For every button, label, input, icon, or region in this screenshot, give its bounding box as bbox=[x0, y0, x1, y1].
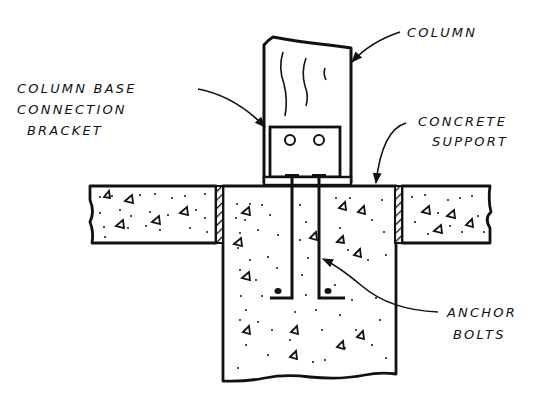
label-support: CONCRETE SUPPORT bbox=[418, 112, 508, 152]
expansion-joint-right bbox=[395, 186, 402, 243]
label-support-line: CONCRETE bbox=[418, 112, 508, 132]
label-bracket-line: COLUMN BASE bbox=[17, 78, 137, 99]
label-support-line: SUPPORT bbox=[418, 132, 508, 152]
label-anchor-line: ANCHOR bbox=[447, 302, 517, 324]
label-bracket: COLUMN BASE CONNECTION BRACKET bbox=[17, 78, 137, 141]
expansion-joint-left bbox=[216, 186, 223, 243]
column-base-bracket bbox=[264, 127, 351, 185]
label-anchor-line: BOLTS bbox=[447, 324, 517, 346]
label-bracket-line: BRACKET bbox=[17, 120, 137, 141]
label-column-line: COLUMN bbox=[407, 24, 477, 41]
concrete-slab-right bbox=[402, 186, 491, 243]
label-bracket-line: CONNECTION bbox=[17, 99, 137, 120]
label-anchor: ANCHOR BOLTS bbox=[447, 302, 517, 346]
label-column: COLUMN bbox=[407, 24, 477, 41]
